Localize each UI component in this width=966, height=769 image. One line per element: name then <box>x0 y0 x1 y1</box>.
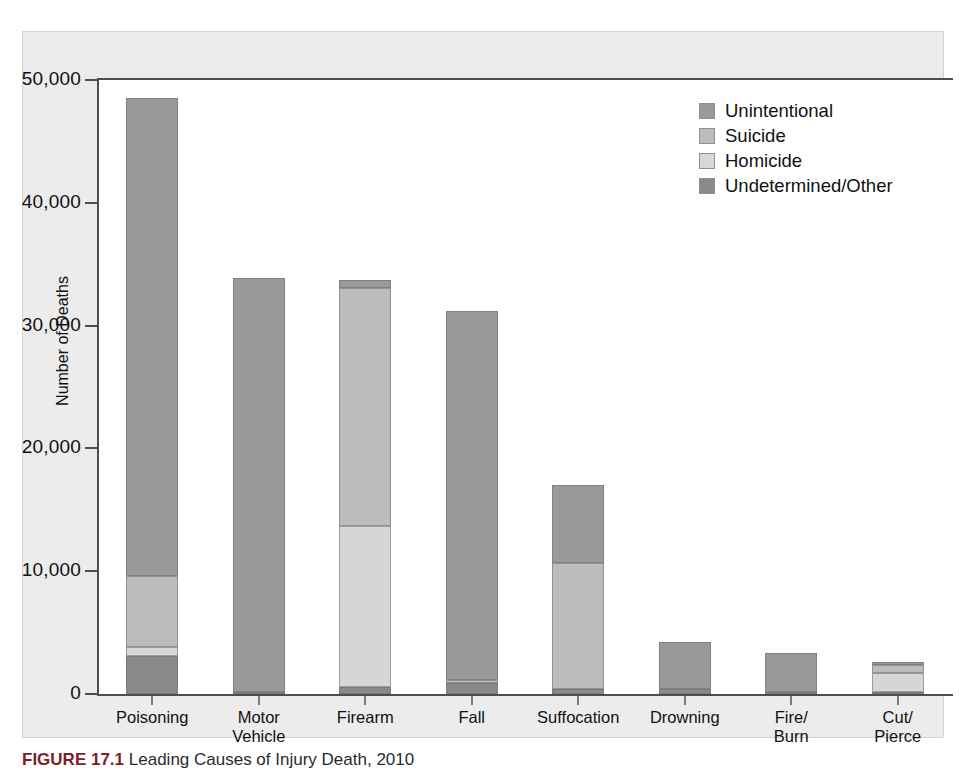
bar-segment-undetermined <box>446 683 498 694</box>
figure-caption: FIGURE 17.1 Leading Causes of Injury Dea… <box>22 750 942 769</box>
bar-segment-undetermined <box>126 656 178 694</box>
bar-segment-unintentional <box>339 280 391 287</box>
y-axis-tick <box>85 79 97 81</box>
legend-item-undetermined: Undetermined/Other <box>699 173 939 198</box>
x-axis-tick <box>577 696 579 705</box>
y-axis-tick-label: 10,000 <box>22 559 81 581</box>
bar-poisoning <box>126 80 178 694</box>
x-axis-category-label: Poisoning <box>99 708 206 727</box>
legend-swatch-icon <box>699 103 715 119</box>
bar-segment-undetermined <box>659 689 711 694</box>
x-axis-category-label: Drowning <box>632 708 739 727</box>
x-axis-tick <box>258 696 260 705</box>
x-axis-category-label: Fire/ Burn <box>738 708 845 746</box>
bar-segment-undetermined <box>552 689 604 694</box>
legend-label: Suicide <box>725 125 786 147</box>
y-axis-labels: 010,00020,00030,00040,00050,000 <box>23 32 81 739</box>
y-axis-title: Number of Deaths <box>54 241 72 441</box>
y-axis-tick-label: 50,000 <box>22 68 81 90</box>
figure-number: FIGURE 17.1 <box>22 750 124 769</box>
x-axis-tick <box>684 696 686 705</box>
bar-segment-homicide <box>872 673 924 691</box>
bar-segment-suicide <box>446 680 498 682</box>
y-axis-tick <box>85 202 97 204</box>
bar-segment-undetermined <box>872 692 924 694</box>
x-axis-tick <box>471 696 473 705</box>
bar-segment-unintentional <box>765 653 817 691</box>
bar-segment-unintentional <box>446 311 498 681</box>
legend-item-suicide: Suicide <box>699 123 939 148</box>
y-axis-tick-label: 30,000 <box>22 314 81 336</box>
y-axis-tick <box>85 570 97 572</box>
x-axis-category-label: Fall <box>419 708 526 727</box>
y-axis-tick <box>85 693 97 695</box>
legend-label: Unintentional <box>725 100 833 122</box>
y-axis-tick-label: 20,000 <box>22 436 81 458</box>
bar-segment-unintentional <box>233 278 285 692</box>
bar-suffocation <box>552 80 604 694</box>
bar-motor-vehicle <box>233 80 285 694</box>
chart-panel: 010,00020,00030,00040,00050,000 Number o… <box>22 31 944 738</box>
legend-item-homicide: Homicide <box>699 148 939 173</box>
bar-segment-unintentional <box>126 98 178 576</box>
bar-segment-suicide <box>339 288 391 526</box>
bar-segment-undetermined <box>339 687 391 694</box>
x-axis-category-label: Cut/ Pierce <box>845 708 952 746</box>
bar-segment-unintentional <box>552 485 604 562</box>
legend-label: Homicide <box>725 150 802 172</box>
bar-firearm <box>339 80 391 694</box>
x-axis-line <box>97 694 953 696</box>
bar-segment-unintentional <box>872 662 924 664</box>
y-axis-tick-label: 40,000 <box>22 191 81 213</box>
bar-segment-suicide <box>126 576 178 647</box>
x-axis-tick <box>790 696 792 705</box>
x-axis-category-label: Suffocation <box>525 708 632 727</box>
x-axis-category-label: Motor Vehicle <box>206 708 313 746</box>
legend-swatch-icon <box>699 178 715 194</box>
figure-caption-text: Leading Causes of Injury Death, 2010 <box>129 750 414 769</box>
legend-swatch-icon <box>699 153 715 169</box>
y-axis-tick <box>85 325 97 327</box>
legend-item-unintentional: Unintentional <box>699 98 939 123</box>
x-axis-tick <box>897 696 899 705</box>
bar-segment-homicide <box>339 526 391 687</box>
bar-segment-undetermined <box>765 692 817 694</box>
bar-segment-undetermined <box>233 692 285 694</box>
bar-segment-unintentional <box>659 642 711 689</box>
y-axis-tick-label: 0 <box>70 682 81 704</box>
bar-segment-suicide <box>872 665 924 674</box>
legend-label: Undetermined/Other <box>725 175 893 197</box>
x-axis-category-label: Firearm <box>312 708 419 727</box>
legend-swatch-icon <box>699 128 715 144</box>
x-axis-tick <box>364 696 366 705</box>
bar-fall <box>446 80 498 694</box>
figure-container: 010,00020,00030,00040,00050,000 Number o… <box>0 0 966 769</box>
bar-segment-homicide <box>126 647 178 656</box>
bar-segment-suicide <box>552 563 604 689</box>
x-axis-tick <box>151 696 153 705</box>
chart-legend: UnintentionalSuicideHomicideUndetermined… <box>699 98 939 198</box>
y-axis-tick <box>85 447 97 449</box>
